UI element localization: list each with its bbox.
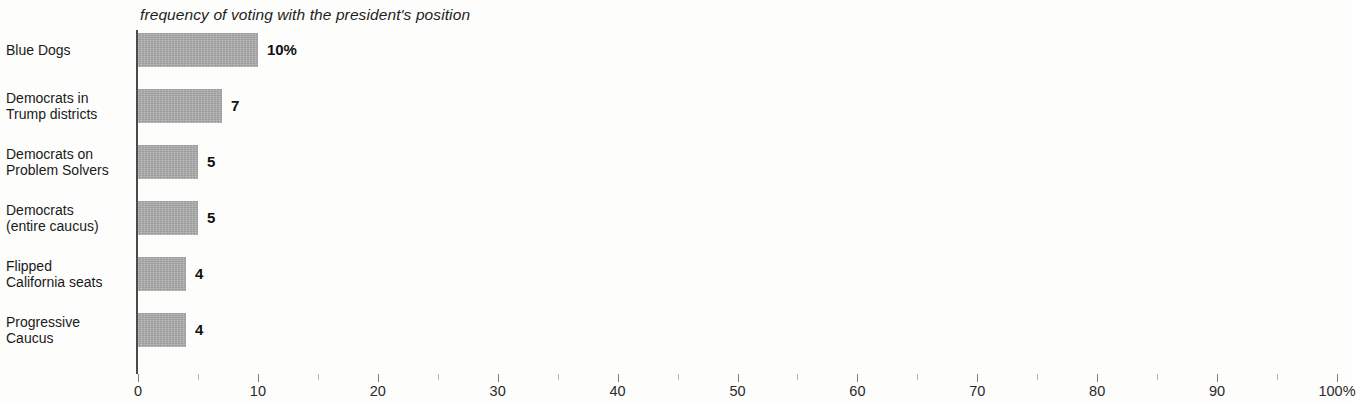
bar-value-label: 5 bbox=[207, 153, 215, 170]
category-label: Democrats inTrump districts bbox=[6, 90, 132, 123]
x-tick-minor bbox=[198, 374, 199, 380]
category-label: ProgressiveCaucus bbox=[6, 314, 132, 347]
x-tick-minor bbox=[1037, 374, 1038, 380]
x-tick-major bbox=[618, 374, 619, 382]
x-tick-minor bbox=[318, 374, 319, 380]
bar-value-label: 4 bbox=[195, 321, 203, 338]
x-tick-major bbox=[1097, 374, 1098, 382]
x-tick-minor bbox=[558, 374, 559, 380]
x-tick-minor bbox=[917, 374, 918, 380]
category-label-line: Democrats bbox=[6, 202, 132, 219]
x-axis: 0102030405060708090100% bbox=[0, 374, 1347, 403]
x-tick-label: 40 bbox=[610, 383, 626, 399]
x-tick-label: 30 bbox=[490, 383, 506, 399]
bar bbox=[138, 89, 222, 123]
x-tick-label: 70 bbox=[969, 383, 985, 399]
x-tick-label: 80 bbox=[1089, 383, 1105, 399]
x-tick-minor bbox=[797, 374, 798, 380]
category-label-line: Democrats in bbox=[6, 90, 132, 107]
category-label: Democrats onProblem Solvers bbox=[6, 146, 132, 179]
category-label-line: California seats bbox=[6, 274, 132, 291]
x-tick-major bbox=[138, 374, 139, 382]
x-tick-label: 60 bbox=[849, 383, 865, 399]
bar-value-label: 5 bbox=[207, 209, 215, 226]
category-label: Blue Dogs bbox=[6, 42, 132, 59]
bar bbox=[138, 313, 186, 347]
category-label-line: (entire caucus) bbox=[6, 218, 132, 235]
x-tick-label: 10 bbox=[250, 383, 266, 399]
x-tick-major bbox=[378, 374, 379, 382]
category-label: Democrats(entire caucus) bbox=[6, 202, 132, 235]
category-label: FlippedCalifornia seats bbox=[6, 258, 132, 291]
bar bbox=[138, 257, 186, 291]
bar-value-label: 4 bbox=[195, 265, 203, 282]
x-tick-label: 100% bbox=[1318, 383, 1355, 399]
x-tick-label: 50 bbox=[729, 383, 745, 399]
category-label-line: Progressive bbox=[6, 314, 132, 331]
x-tick-major bbox=[1217, 374, 1218, 382]
category-label-line: Caucus bbox=[6, 330, 132, 347]
category-label-line: Problem Solvers bbox=[6, 162, 132, 179]
x-tick-label: 20 bbox=[370, 383, 386, 399]
bar-value-label: 10% bbox=[267, 41, 297, 58]
x-tick-major bbox=[498, 374, 499, 382]
x-tick-major bbox=[977, 374, 978, 382]
category-label-line: Trump districts bbox=[6, 106, 132, 123]
bar bbox=[138, 201, 198, 235]
category-label-line: Democrats on bbox=[6, 146, 132, 163]
x-tick-minor bbox=[678, 374, 679, 380]
x-tick-minor bbox=[438, 374, 439, 380]
x-tick-major bbox=[738, 374, 739, 382]
x-tick-label: 90 bbox=[1209, 383, 1225, 399]
bar-value-label: 7 bbox=[231, 97, 239, 114]
x-tick-major bbox=[857, 374, 858, 382]
category-label-line: Flipped bbox=[6, 258, 132, 275]
x-tick-major bbox=[258, 374, 259, 382]
category-label-line: Blue Dogs bbox=[6, 42, 132, 59]
bar bbox=[138, 145, 198, 179]
bar bbox=[138, 33, 258, 67]
x-tick-major bbox=[1337, 374, 1338, 382]
x-tick-label: 0 bbox=[134, 383, 142, 399]
x-tick-minor bbox=[1157, 374, 1158, 380]
x-tick-minor bbox=[1277, 374, 1278, 380]
